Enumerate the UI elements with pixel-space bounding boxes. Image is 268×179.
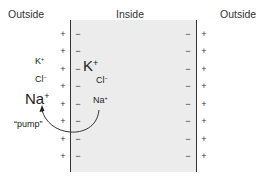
- arrowhead-icon: [40, 105, 45, 112]
- pump-arrow: [0, 0, 268, 179]
